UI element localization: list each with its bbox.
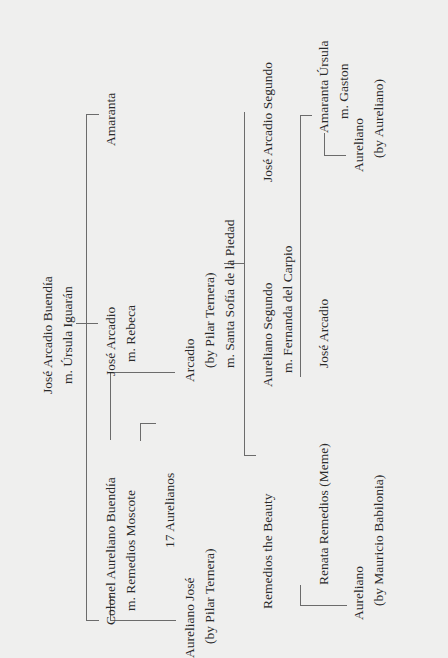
aureliano-meme-note: (by Mauricio Babilonia) <box>369 475 389 620</box>
colonel-name: Colonel Aureliano Buendía <box>101 477 121 625</box>
gen3-rail <box>244 112 245 455</box>
arcadio-note: (by Pilar Ternera) <box>200 220 220 382</box>
remedios-beauty-name: Remedios the Beauty <box>258 494 278 609</box>
node-aureliano-meme: Aureliano (by Mauricio Babilonia) <box>349 475 389 620</box>
jose-arcadio-name: José Arcadio <box>101 305 121 376</box>
node-jose-arcadio-gen4: José Arcadio <box>314 299 334 368</box>
jose-arcadio-gen4-name: José Arcadio <box>314 299 334 368</box>
node-aureliano-jose: Aureliano José (by Pilar Ternera) <box>180 548 220 658</box>
root-name: José Arcadio Buendía <box>38 276 58 394</box>
node-aureliano-segundo: Aureliano Segundo m. Fernanda del Carpio <box>258 246 298 387</box>
renata-name: Renata Remedios (Meme) <box>314 443 334 585</box>
gen3-tick-remedios <box>244 455 256 456</box>
jose-arcadio-spouse: m. Rebeca <box>121 305 141 376</box>
seventeen-top <box>140 423 156 424</box>
node-root: José Arcadio Buendía m. Úrsula Iguarán <box>38 276 78 394</box>
node-arcadio: Arcadio (by Pilar Ternera) m. Santa Sofí… <box>180 220 240 382</box>
colonel-spouse: m. Remedios Moscote <box>121 477 141 625</box>
seventeen-branch <box>140 423 141 441</box>
node-aureliano-amaranta: Aureliano (by Aureliano) <box>349 79 389 172</box>
amaranta-ursula-name: Amaranta Úrsula <box>314 40 334 133</box>
node-renata-remedios: Renata Remedios (Meme) <box>314 443 334 585</box>
amaranta-ursula-aureliano-v <box>324 133 325 155</box>
node-amaranta: Amaranta <box>101 93 121 146</box>
aureliano-amaranta-note: (by Aureliano) <box>369 79 389 172</box>
aureliano-amaranta-name: Aureliano <box>349 79 369 172</box>
root-spouse: m. Úrsula Iguarán <box>58 276 78 394</box>
node-colonel: Colonel Aureliano Buendía m. Remedios Mo… <box>101 477 141 625</box>
jas-name: José Arcadio Segundo <box>258 62 278 182</box>
renata-aureliano-h <box>300 605 347 606</box>
aureliano-jose-note: (by Pilar Ternera) <box>200 548 220 658</box>
jose-arcadio-stub <box>110 372 111 440</box>
amaranta-name: Amaranta <box>101 93 121 146</box>
aureliano-segundo-name: Aureliano Segundo <box>258 246 278 387</box>
root-connector <box>76 323 98 324</box>
node-jose-arcadio-segundo: José Arcadio Segundo <box>258 62 278 182</box>
gen4-rail <box>300 115 301 377</box>
gen2-rail <box>86 114 87 621</box>
node-remedios-beauty: Remedios the Beauty <box>258 494 278 609</box>
gen4-tick-amaranta-ursula <box>300 115 312 116</box>
node-amaranta-ursula: Amaranta Úrsula m. Gaston <box>314 40 354 133</box>
arcadio-name: Arcadio <box>180 220 200 382</box>
aureliano-jose-name: Aureliano José <box>180 548 200 658</box>
node-17-aurelianos: 17 Aurelianos <box>160 473 180 548</box>
node-jose-arcadio: José Arcadio m. Rebeca <box>101 305 141 376</box>
amaranta-ursula-aureliano-h <box>324 155 346 156</box>
aureliano-meme-name: Aureliano <box>349 475 369 620</box>
seventeen-name: 17 Aurelianos <box>160 473 180 548</box>
arcadio-spouse: m. Santa Sofía de la Piedad <box>220 220 240 382</box>
aureliano-segundo-spouse: m. Fernanda del Carpio <box>278 246 298 387</box>
gen2-tick-amaranta <box>86 114 99 115</box>
gen2-tick-colonel <box>86 620 99 621</box>
renata-aureliano-v <box>300 585 301 606</box>
